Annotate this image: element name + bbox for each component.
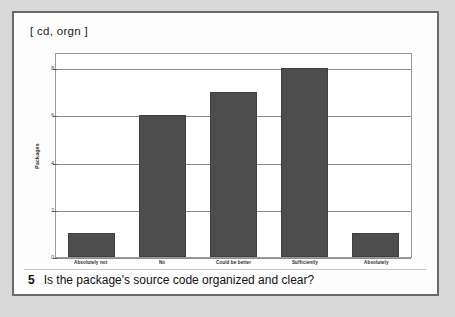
x-tick-label: No xyxy=(126,260,197,272)
bar-no xyxy=(139,115,186,257)
caption-number: 5 xyxy=(28,273,35,287)
y-axis-title-label: Packages xyxy=(34,143,40,169)
plot-area xyxy=(55,53,412,258)
y-axis-tick-labels: 02468 xyxy=(44,53,54,258)
bar-sufficiently xyxy=(281,68,328,257)
figure-tag: [ cd, orgn ] xyxy=(30,25,88,37)
caption-text: Is the package's source code organized a… xyxy=(44,273,314,287)
figure-caption: 5 Is the package's source code organized… xyxy=(28,273,427,287)
bars-layer xyxy=(56,69,411,257)
bar-slot xyxy=(269,69,340,257)
gridline-0 xyxy=(56,258,411,259)
bar-slot xyxy=(340,69,411,257)
y-axis-title: Packages xyxy=(30,53,44,258)
bar-slot xyxy=(56,69,127,257)
bar-absolutely xyxy=(352,233,399,257)
x-axis-tick-labels: Absolutely notNoCould be betterSufficien… xyxy=(55,260,412,272)
x-tick-label: Sufficiently xyxy=(269,260,340,272)
bar-absolutely-not xyxy=(68,233,115,257)
bar-chart: Packages 02468 Absolutely notNoCould be … xyxy=(28,53,426,258)
bar-could-be-better xyxy=(210,92,257,257)
x-tick-label: Could be better xyxy=(198,260,269,272)
y-axis-tick xyxy=(53,258,57,259)
x-tick-label: Absolutely xyxy=(341,260,412,272)
x-tick-label: Absolutely not xyxy=(55,260,126,272)
figure-panel: [ cd, orgn ] Packages 02468 Absolutely n… xyxy=(12,11,439,296)
bar-slot xyxy=(127,69,198,257)
bar-slot xyxy=(198,69,269,257)
caption-divider xyxy=(24,269,427,270)
